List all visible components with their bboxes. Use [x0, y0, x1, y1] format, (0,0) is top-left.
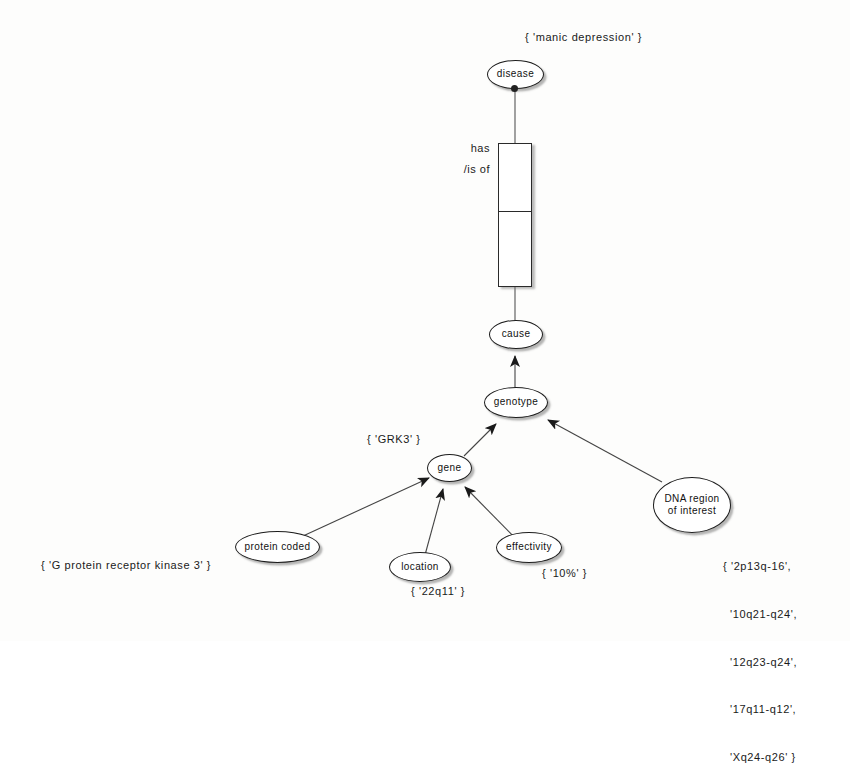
annotation-gene-value: { 'GRK3' }	[367, 432, 421, 448]
node-gene-label: gene	[438, 462, 462, 475]
annotation-effectivity-value: { '10%' }	[542, 566, 587, 582]
annotation-dna-value-line: '10q21-q24',	[723, 607, 797, 623]
disease-junction-dot	[511, 85, 518, 92]
node-genotype[interactable]: genotype	[484, 387, 548, 418]
edge-location-gene	[425, 489, 443, 555]
annotation-dna-value-line: '12q23-q24',	[723, 655, 797, 671]
node-cause[interactable]: cause	[489, 320, 543, 349]
node-genotype-label: genotype	[494, 396, 538, 409]
edge-gene-genotype	[464, 424, 496, 456]
relationship-box[interactable]	[498, 143, 532, 287]
node-effectivity[interactable]: effectivity	[496, 532, 562, 563]
node-effectivity-label: effectivity	[506, 541, 552, 554]
relationship-label: has /is of	[452, 138, 490, 180]
edge-protein-gene	[303, 478, 429, 536]
node-dna-region-label-line1: DNA region	[664, 493, 719, 506]
node-protein-coded-label: protein coded	[245, 541, 311, 554]
annotation-location-value: { '22q11' }	[411, 584, 465, 600]
relationship-box-divider	[499, 211, 531, 212]
annotation-dna-values: { '2p13q-16', '10q21-q24', '12q23-q24', …	[723, 527, 797, 767]
node-location[interactable]: location	[389, 552, 451, 582]
node-protein-coded[interactable]: protein coded	[235, 531, 320, 563]
annotation-dna-value-line: '17q11-q12',	[723, 702, 797, 718]
node-gene[interactable]: gene	[427, 454, 472, 482]
annotation-protein-value: { 'G protein receptor kinase 3' }	[41, 558, 211, 574]
edge-dna-genotype	[548, 420, 662, 482]
relationship-label-line1: has	[452, 138, 490, 159]
node-disease-label: disease	[497, 68, 534, 81]
annotation-disease-value: { 'manic depression' }	[525, 30, 642, 46]
annotation-dna-value-line: { '2p13q-16',	[723, 559, 797, 575]
annotation-dna-value-line: 'Xq24-q26' }	[723, 750, 797, 766]
node-dna-region-of-interest[interactable]: DNA region of interest	[653, 477, 731, 533]
node-dna-region-label-line2: of interest	[668, 505, 716, 518]
node-cause-label: cause	[502, 328, 531, 341]
node-location-label: location	[401, 561, 439, 574]
relationship-label-line2: /is of	[452, 159, 490, 180]
